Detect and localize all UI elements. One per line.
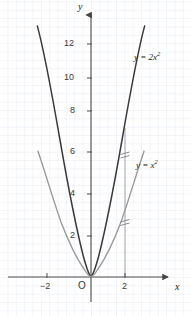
curve-label-x-squared-text: y = x [136,160,155,170]
y-axis-label: y [78,1,82,12]
y-tick-label-12: 12 [64,38,74,48]
curve-label-2x-squared: y = 2x2 [134,50,160,62]
curve-label-2x-squared-exp: 2 [157,50,160,57]
x-tick-label-neg2: −2 [40,281,50,291]
y-tick-label-2: 2 [70,230,75,240]
curve-label-x-squared: y = x2 [136,158,158,170]
y-tick-label-10: 10 [64,72,74,82]
y-tick-label-6: 6 [70,146,75,156]
y-tick-label-4: 4 [70,188,75,198]
origin-label: O [78,280,86,291]
curve-label-x-squared-exp: 2 [155,158,158,165]
graph-figure: 12 10 8 6 4 2 −2 2 O y x y = 2x2 y = x2 [0,0,191,316]
x-tick-label-2: 2 [122,281,127,291]
curve-label-2x-squared-text: y = 2x [134,52,157,62]
y-tick-label-8: 8 [70,105,75,115]
plot-canvas [0,0,191,316]
x-axis-label: x [175,281,179,292]
